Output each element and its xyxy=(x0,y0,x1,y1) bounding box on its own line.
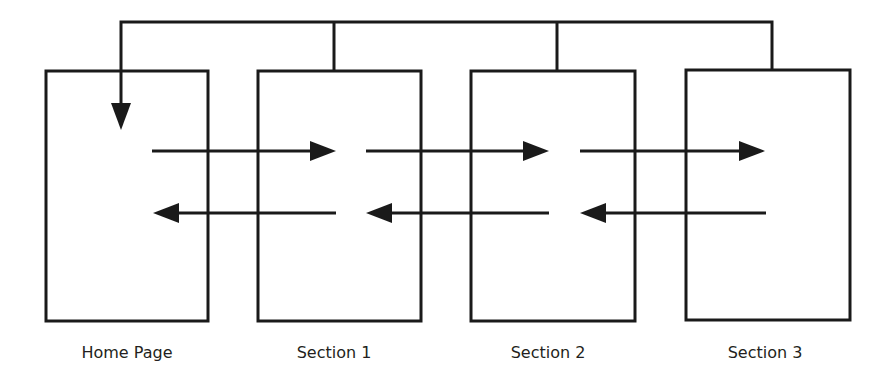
section-3-label: Section 3 xyxy=(665,343,865,362)
section-2-box xyxy=(471,71,635,321)
arrowhead-left-icon xyxy=(580,203,606,223)
section-2-label: Section 2 xyxy=(448,343,648,362)
home-page-label: Home Page xyxy=(27,343,227,362)
section-3-box xyxy=(686,70,850,320)
arrowhead-right-icon xyxy=(739,141,765,161)
return-home-connector xyxy=(121,22,772,105)
arrowhead-left-icon xyxy=(366,203,392,223)
section-1-box xyxy=(258,71,421,321)
arrowhead-right-icon xyxy=(310,141,336,161)
section-1-label: Section 1 xyxy=(234,343,434,362)
arrowhead-left-icon xyxy=(153,203,179,223)
arrowhead-down-icon xyxy=(111,103,131,130)
arrowhead-right-icon xyxy=(523,141,549,161)
linear-navigation-diagram xyxy=(0,0,890,388)
